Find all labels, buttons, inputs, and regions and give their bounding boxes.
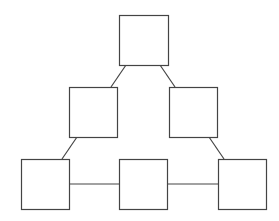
node-top (120, 16, 169, 66)
edge-mid-left-bottom-left (62, 137, 77, 159)
edge-mid-right-bottom-right (209, 137, 224, 159)
node-mid-left (70, 88, 118, 138)
node-bottom-center (120, 160, 168, 210)
node-mid-right (170, 88, 218, 138)
diagram-canvas (0, 0, 279, 221)
edge-top-mid-right (160, 65, 175, 87)
edge-top-mid-left (111, 65, 126, 87)
node-bottom-right (219, 160, 267, 210)
node-bottom-left (22, 160, 70, 210)
